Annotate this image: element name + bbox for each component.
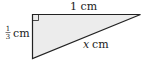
right-triangle [33, 15, 141, 59]
left-side-denominator: 3 [6, 33, 10, 41]
left-side-numerator: 1 [6, 25, 10, 33]
triangle-diagram: 1 cm 1 3 cm x cm [0, 0, 147, 66]
hypotenuse-unit: cm [92, 38, 109, 51]
top-side-label: 1 cm [70, 0, 98, 13]
hypotenuse-variable: x [83, 38, 90, 51]
left-side-unit: cm [13, 27, 30, 40]
